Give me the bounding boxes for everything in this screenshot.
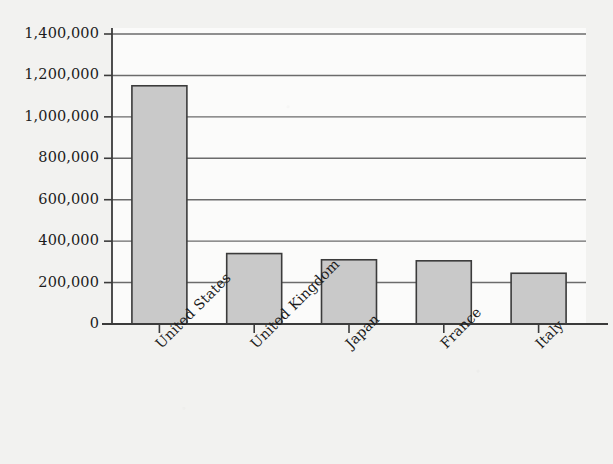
bar xyxy=(132,86,187,324)
y-axis-tick-label: 200,000 xyxy=(38,274,99,290)
bar-chart: 0200,000400,000600,000800,0001,000,0001,… xyxy=(0,0,613,464)
y-axis-tick-label: 1,200,000 xyxy=(24,66,99,82)
y-axis-tick-label: 1,400,000 xyxy=(24,25,99,41)
y-axis-tick-label: 0 xyxy=(90,315,99,331)
y-axis-tick-label: 1,000,000 xyxy=(24,108,99,124)
bar xyxy=(511,273,566,324)
y-axis-tick-label: 800,000 xyxy=(38,149,99,165)
y-axis-tick-label: 600,000 xyxy=(38,191,99,207)
y-axis-tick-label: 400,000 xyxy=(38,232,99,248)
